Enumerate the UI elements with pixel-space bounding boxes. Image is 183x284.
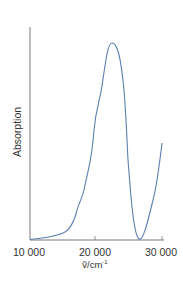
x-axis-label: ṽ/cm-1 bbox=[82, 259, 108, 270]
x-tick-label-20000: 20 000 bbox=[79, 246, 111, 258]
x-tick-label-30000: 30 000 bbox=[145, 246, 177, 258]
absorption-chart: 10 000 20 000 30 000 ṽ/cm-1 Absorption bbox=[0, 0, 183, 284]
y-axis-label: Absorption bbox=[11, 107, 23, 157]
absorption-curve bbox=[30, 43, 162, 240]
x-tick-label-10000: 10 000 bbox=[13, 246, 45, 258]
